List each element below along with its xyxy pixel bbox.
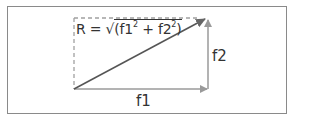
f2-label: f2 [212,49,227,64]
resultant-formula: R = √(f12 + f22) [76,22,182,36]
f1-label: f1 [136,94,151,109]
sqrt-symbol: √ [106,21,115,37]
